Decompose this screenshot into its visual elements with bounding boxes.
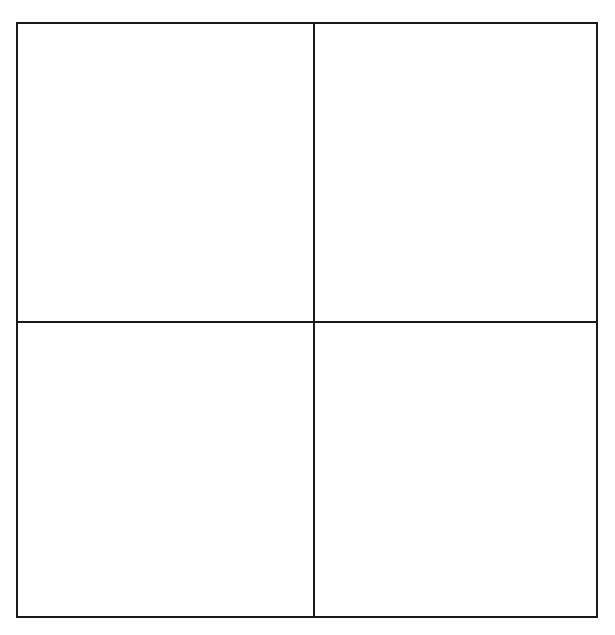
quadrant-grid-frame [16, 22, 598, 618]
quadrant-top-right [315, 24, 596, 321]
quadrant-bottom-right [315, 323, 596, 616]
page-canvas [0, 0, 615, 635]
quadrant-top-left [18, 24, 313, 321]
quadrant-bottom-left [18, 323, 313, 616]
